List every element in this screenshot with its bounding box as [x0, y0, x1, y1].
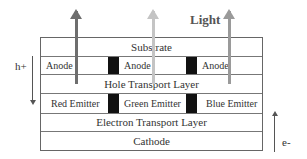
anode-label-1: Anode — [46, 57, 73, 74]
hole-flow-arrow — [32, 56, 33, 103]
cathode-label: Cathode — [41, 135, 262, 147]
emitter-divider-1 — [108, 94, 119, 113]
holes-label: h+ — [15, 60, 27, 72]
light-label: Light — [190, 12, 220, 28]
blue-emitter-label: Blue Emitter — [206, 94, 257, 113]
down-arrow-icon — [30, 100, 36, 105]
electron-flow-arrow — [274, 114, 275, 152]
emitter-layer: Red Emitter Green Emitter Blue Emitter — [41, 94, 262, 114]
electron-transport-layer: Electron Transport Layer — [41, 114, 262, 132]
anode-label-3: Anode — [202, 57, 229, 74]
red-light-arrow — [75, 11, 78, 84]
pixel-divider-2 — [186, 57, 197, 74]
pixel-divider-1 — [108, 57, 119, 74]
arrow-head-icon — [70, 9, 82, 19]
arrow-head-icon — [223, 9, 235, 19]
electrons-label: e- — [282, 136, 291, 148]
blue-light-arrow — [228, 11, 231, 84]
up-arrow-icon — [272, 111, 278, 116]
etl-label: Electron Transport Layer — [41, 116, 262, 128]
green-emitter-label: Green Emitter — [124, 94, 181, 113]
anode-label-2: Anode — [124, 57, 151, 74]
red-emitter-label: Red Emitter — [51, 94, 100, 113]
emitter-divider-2 — [186, 94, 197, 113]
arrow-head-icon — [147, 9, 159, 19]
green-light-arrow — [152, 11, 155, 84]
cathode-layer: Cathode — [41, 132, 262, 152]
